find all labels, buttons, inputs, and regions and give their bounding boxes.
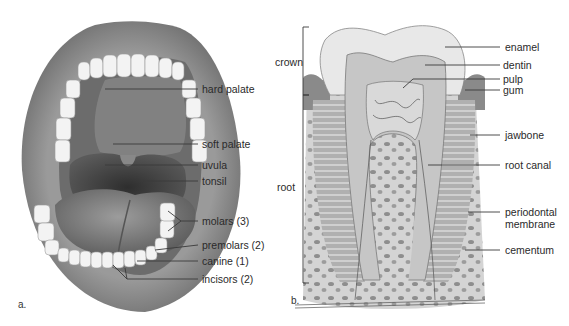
label-uvula: uvula	[202, 159, 227, 171]
label-root-canal: root canal	[505, 159, 551, 171]
label-tonsil: tonsil	[202, 175, 227, 187]
bracket-label-root: root	[277, 181, 295, 193]
label-hard-palate: hard palate	[202, 83, 255, 95]
label-incisors: incisors (2)	[202, 273, 253, 285]
figure-b-tooth: crown root enamel dentin pulp gum jawbon…	[285, 0, 569, 326]
label-soft-palate: soft palate	[202, 138, 250, 150]
panel-letter-a: a.	[18, 299, 26, 310]
label-enamel: enamel	[505, 41, 539, 53]
label-gum: gum	[503, 84, 523, 96]
panel-letter-b: b.	[291, 295, 299, 306]
label-jawbone: jawbone	[505, 129, 544, 141]
label-canine: canine (1)	[202, 255, 249, 267]
label-dentin: dentin	[503, 59, 532, 71]
label-periodontal: periodontal	[505, 206, 557, 218]
pulp-shape	[366, 81, 423, 140]
figure-a-mouth: hard palate soft palate uvula tonsil mol…	[0, 0, 285, 326]
label-membrane: membrane	[505, 218, 555, 230]
label-cementum: cementum	[505, 244, 554, 256]
label-molars: molars (3)	[202, 215, 249, 227]
bracket-label-crown: crown	[275, 56, 303, 68]
label-premolars: premolars (2)	[202, 239, 264, 251]
